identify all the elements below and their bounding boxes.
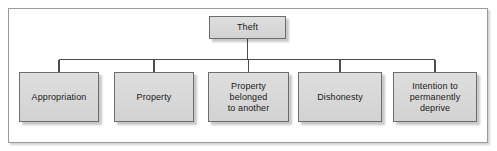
- node-appropriation-label: Appropriation: [20, 92, 98, 103]
- node-dishonesty-label: Dishonesty: [299, 92, 381, 103]
- node-intention-to-permanently-deprive-label: Intention to permanently deprive: [394, 81, 476, 114]
- node-property-belonged-to-another-label: Property belonged to another: [209, 81, 288, 114]
- node-property: Property: [114, 72, 194, 122]
- node-theft-label: Theft: [210, 22, 285, 33]
- node-dishonesty: Dishonesty: [298, 72, 382, 122]
- node-theft: Theft: [209, 16, 286, 39]
- node-property-belonged-to-another: Property belonged to another: [208, 72, 289, 122]
- node-intention-to-permanently-deprive: Intention to permanently deprive: [393, 72, 477, 122]
- node-appropriation: Appropriation: [19, 72, 99, 122]
- tree-diagram: Theft Appropriation Property Property be…: [0, 0, 497, 151]
- node-property-label: Property: [115, 92, 193, 103]
